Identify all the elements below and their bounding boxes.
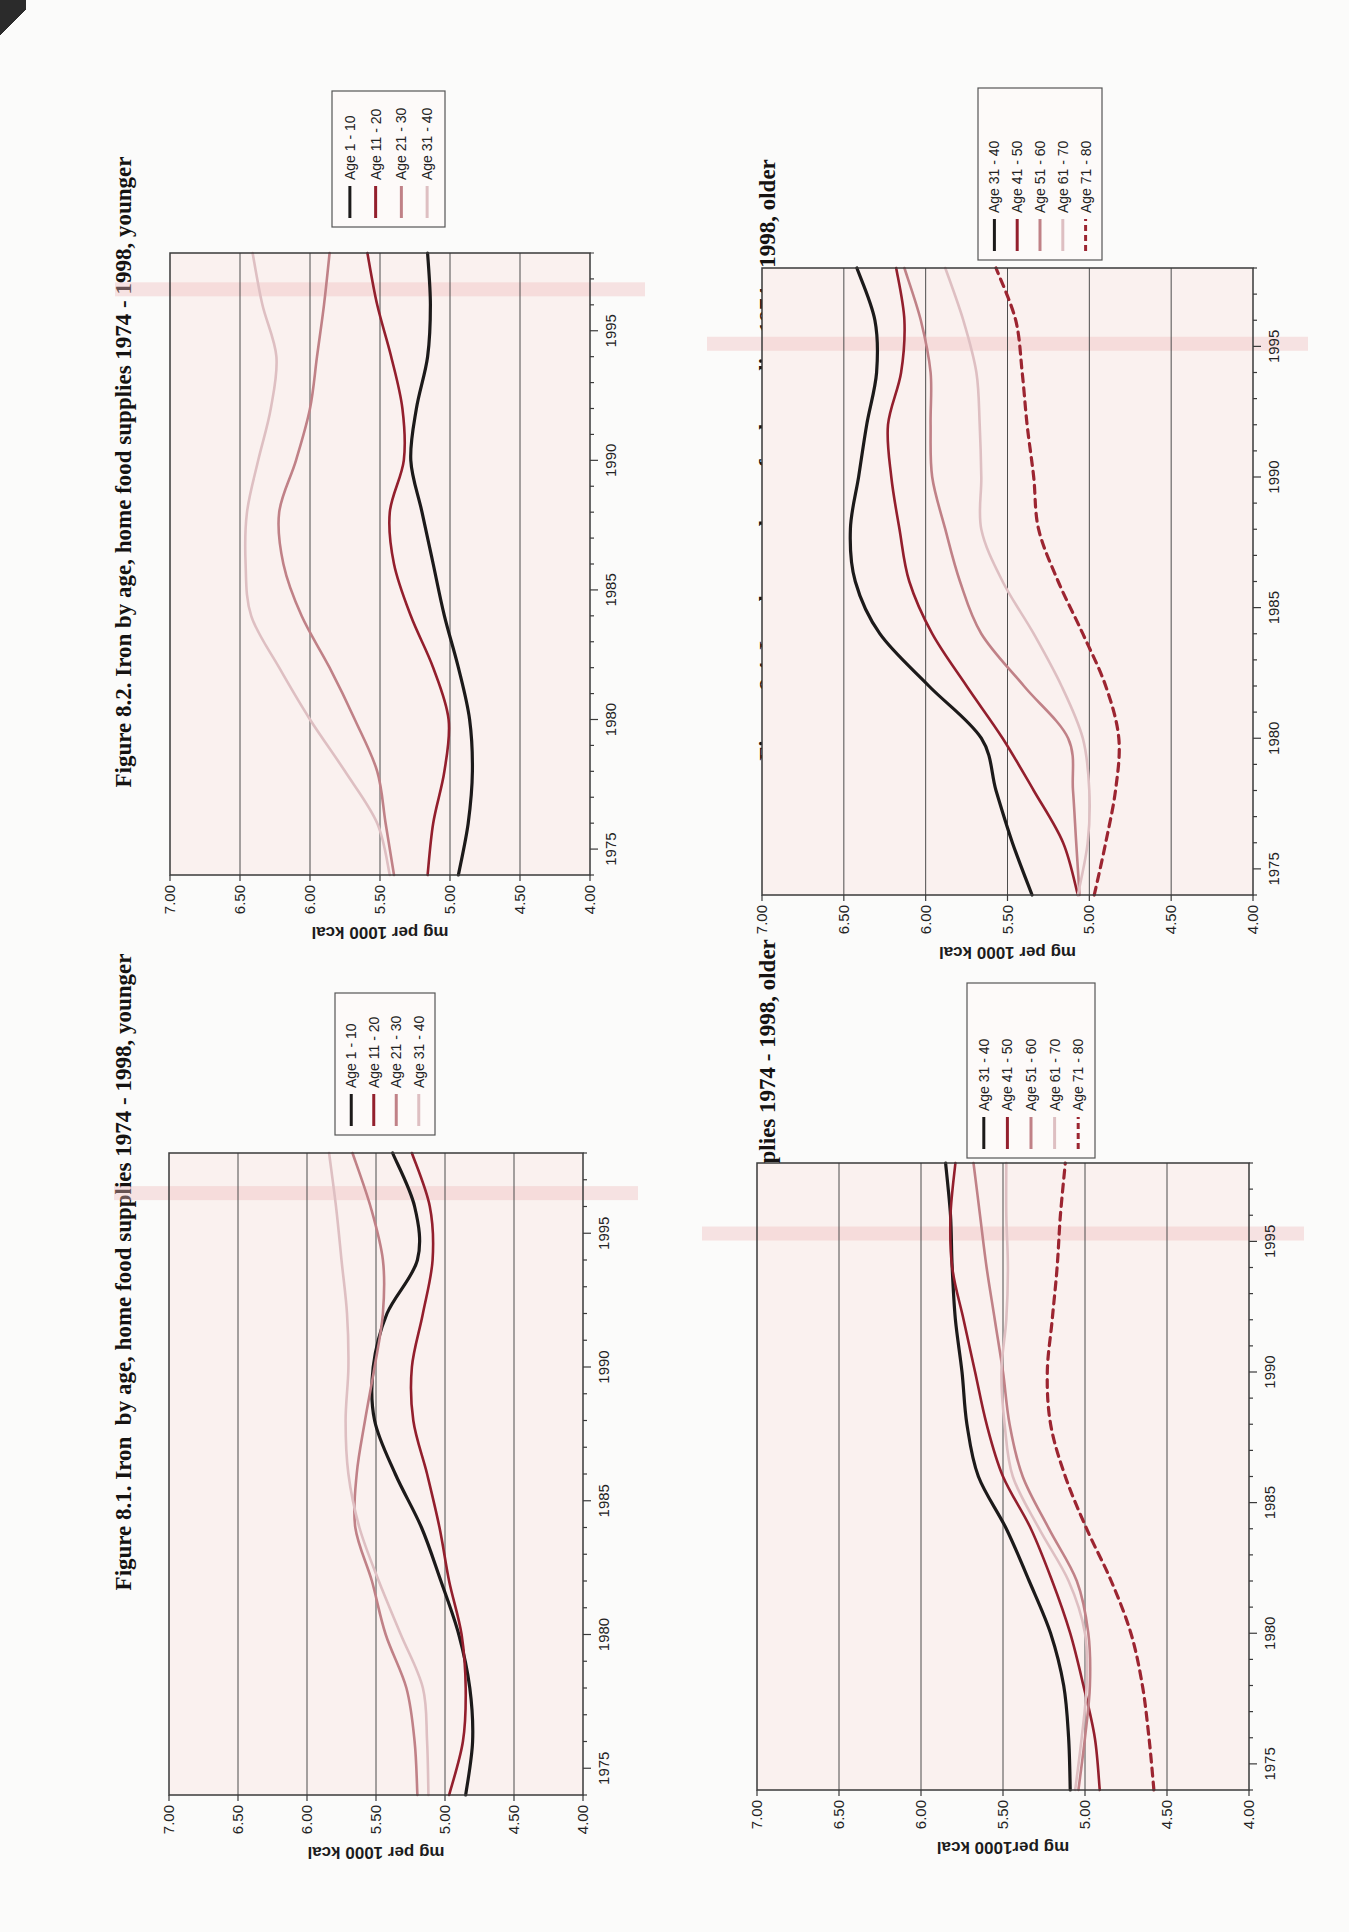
legend-label: Age 21 - 30 <box>393 107 409 180</box>
y-tick-label: 4.50 <box>505 1805 522 1834</box>
y-tick-label: 5.00 <box>1076 1800 1093 1829</box>
legend-label: Age 51 - 60 <box>1032 140 1048 213</box>
x-tick-label: 1990 <box>595 1350 612 1383</box>
y-tick-label: 7.00 <box>748 1800 765 1829</box>
x-tick-label: 1985 <box>1261 1486 1278 1519</box>
x-tick-label: 1980 <box>595 1618 612 1651</box>
y-tick-label: 6.50 <box>231 885 248 914</box>
x-tick-label: 1995 <box>1265 330 1282 363</box>
y-tick-label: 6.50 <box>830 1800 847 1829</box>
y-tick-label: 6.50 <box>229 1805 246 1834</box>
y-tick-label: 6.00 <box>301 885 318 914</box>
y-axis-label: mg per 1000 kcal <box>311 923 448 942</box>
legend-label: Age 41 - 50 <box>1009 140 1025 213</box>
legend-label: Age 31 - 40 <box>411 1015 427 1088</box>
x-tick-label: 1975 <box>1265 852 1282 885</box>
y-tick-label: 4.50 <box>1158 1800 1175 1829</box>
x-tick-label: 1975 <box>595 1752 612 1785</box>
legend-label: Age 11 - 20 <box>366 1016 382 1088</box>
figure-8-2-chart: Figure 8.2. Iron by age, home food suppl… <box>30 22 700 972</box>
y-tick-label: 4.50 <box>1162 905 1179 934</box>
y-axis-label: mg per1000 kcal <box>937 1838 1069 1857</box>
x-tick-label: 1985 <box>595 1484 612 1517</box>
x-tick-label: 1995 <box>595 1217 612 1250</box>
figure-8-1-plot: 7.006.506.005.505.004.504.00197519801985… <box>30 942 700 1892</box>
x-tick-label: 1995 <box>602 314 619 347</box>
x-tick-label: 1980 <box>1265 722 1282 755</box>
legend-label: Age 1 - 10 <box>342 115 358 180</box>
scanned-landscape-page: Figure 8.1. Iron by age, home food suppl… <box>0 0 1349 1932</box>
x-tick-label: 1990 <box>1265 460 1282 493</box>
y-axis-label: mg per 1000 kcal <box>939 943 1076 962</box>
x-tick-label: 1975 <box>1261 1747 1278 1780</box>
legend-label: Age 61 - 70 <box>1055 140 1071 213</box>
y-tick-label: 4.00 <box>574 1805 591 1834</box>
legend-label: Age 11 - 20 <box>368 108 384 180</box>
figure-8-4-chart: Figure 8.4. Iron by age, home food suppl… <box>660 12 1330 972</box>
x-tick-label: 1985 <box>1265 591 1282 624</box>
x-tick-label: 1990 <box>602 444 619 477</box>
y-tick-label: 5.50 <box>371 885 388 914</box>
y-tick-label: 6.00 <box>912 1800 929 1829</box>
legend-label: Age 51 - 60 <box>1023 1038 1039 1111</box>
y-axis-label: mg per 1000 kcal <box>307 1843 444 1862</box>
x-tick-label: 1990 <box>1261 1355 1278 1388</box>
legend-label: Age 41 - 50 <box>999 1038 1015 1111</box>
figure-8-3-plot: 7.006.506.005.505.004.504.00197519801985… <box>660 932 1330 1892</box>
legend-label: Age 61 - 70 <box>1047 1038 1063 1111</box>
y-tick-label: 5.00 <box>441 885 458 914</box>
y-tick-label: 4.00 <box>1244 905 1261 934</box>
figure-8-1-chart: Figure 8.1. Iron by age, home food suppl… <box>30 942 700 1892</box>
legend-label: Age 71 - 80 <box>1078 140 1094 213</box>
y-tick-label: 5.50 <box>367 1805 384 1834</box>
legend-label: Age 31 - 40 <box>419 107 435 180</box>
y-tick-label: 6.00 <box>917 905 934 934</box>
y-tick-label: 4.50 <box>511 885 528 914</box>
figure-8-2-plot: 7.006.506.005.505.004.504.00197519801985… <box>30 22 700 972</box>
legend-label: Age 71 - 80 <box>1070 1038 1086 1111</box>
y-tick-label: 5.50 <box>999 905 1016 934</box>
y-tick-label: 7.00 <box>161 885 178 914</box>
y-tick-label: 7.00 <box>160 1805 177 1834</box>
y-tick-label: 5.00 <box>436 1805 453 1834</box>
x-tick-label: 1975 <box>602 832 619 865</box>
figure-8-3-chart: Figure 8.3. Iron by age, home food suppl… <box>660 932 1330 1892</box>
legend-label: Age 31 - 40 <box>986 140 1002 213</box>
figure-8-4-plot: 7.006.506.005.505.004.504.00197519801985… <box>660 12 1330 972</box>
x-tick-label: 1980 <box>602 703 619 736</box>
legend-label: Age 1 - 10 <box>343 1023 359 1088</box>
y-tick-label: 6.50 <box>835 905 852 934</box>
y-tick-label: 4.00 <box>1240 1800 1257 1829</box>
scan-corner-artifact <box>0 0 26 38</box>
y-tick-label: 4.00 <box>581 885 598 914</box>
x-tick-label: 1985 <box>602 573 619 606</box>
legend-label: Age 21 - 30 <box>388 1015 404 1088</box>
y-tick-label: 6.00 <box>298 1805 315 1834</box>
legend-label: Age 31 - 40 <box>976 1038 992 1111</box>
y-tick-label: 7.00 <box>753 905 770 934</box>
x-tick-label: 1980 <box>1261 1617 1278 1650</box>
x-tick-label: 1995 <box>1261 1225 1278 1258</box>
y-tick-label: 5.00 <box>1080 905 1097 934</box>
y-tick-label: 5.50 <box>994 1800 1011 1829</box>
